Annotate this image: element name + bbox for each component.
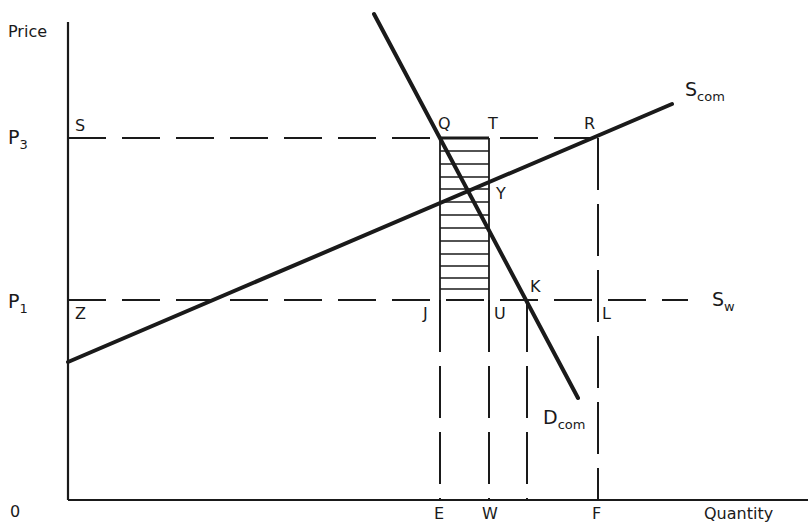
point-label-z: Z bbox=[75, 306, 86, 322]
price-lines bbox=[68, 138, 688, 300]
demand-curve-d-com bbox=[374, 14, 578, 398]
point-label-y: Y bbox=[496, 186, 506, 202]
curves bbox=[68, 14, 672, 398]
curve-label-s-w: Sw bbox=[712, 290, 735, 309]
x-tick-label-w: W bbox=[482, 506, 498, 522]
x-axis-label: Quantity bbox=[704, 506, 773, 522]
point-label-s: S bbox=[75, 118, 85, 134]
y-axis-label: Price bbox=[8, 24, 47, 40]
x-tick-label-f: F bbox=[592, 506, 601, 522]
origin-label: 0 bbox=[10, 504, 20, 520]
supply-curve-s-com bbox=[68, 104, 672, 362]
point-label-r: R bbox=[584, 116, 595, 132]
point-label-k: K bbox=[530, 279, 541, 295]
price-label-p3: P3 bbox=[8, 128, 28, 147]
curve-label-d-com: Dcom bbox=[543, 408, 585, 427]
point-label-t: T bbox=[488, 116, 498, 132]
point-label-u: U bbox=[494, 306, 506, 322]
point-label-l: L bbox=[602, 306, 611, 322]
curve-label-s-com: Scom bbox=[685, 80, 725, 99]
x-tick-label-e: E bbox=[434, 506, 444, 522]
point-label-j: J bbox=[423, 306, 428, 322]
price-label-p1: P1 bbox=[8, 292, 28, 311]
point-label-q: Q bbox=[438, 116, 451, 132]
